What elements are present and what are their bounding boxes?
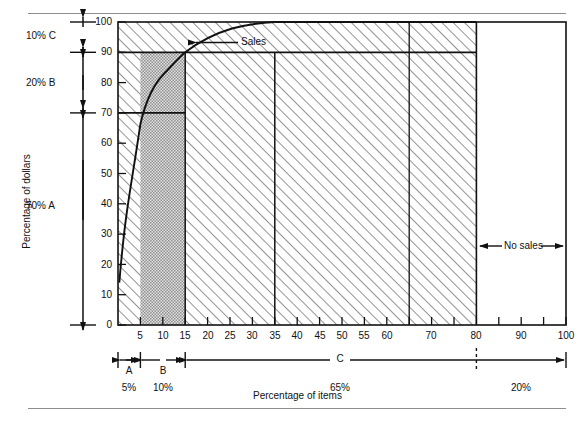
y-tick-label: 100 [86,17,112,27]
x-tick-label: 50 [330,331,354,341]
y-tick-label: 60 [86,138,112,148]
left-bracket-label-C: 10% C [26,30,56,41]
x-tick-label: 30 [240,331,264,341]
abc-analysis-figure: 100 90 80 70 60 50 40 30 20 10 0 5 10 15… [0,0,585,423]
x-tick-label: 40 [285,331,309,341]
left-bracket-label-A: 70% A [26,200,55,211]
bottom-bracket-pct-A: 5% [114,383,144,393]
x-tick-label: 15 [173,331,197,341]
x-tick-label: 25 [218,331,242,341]
left-bracket-label-B: 20% B [26,77,55,88]
x-tick-label: 70 [419,331,443,341]
region-no-sales [476,22,566,325]
bottom-bracket-pct-C: 65% [325,383,355,393]
x-tick-label: 20 [196,331,220,341]
bottom-bracket-class-B: B [151,366,175,376]
no-sales-annotation-label: No sales [504,241,543,251]
x-tick-label: 5 [128,331,152,341]
x-tick-label: 60 [375,331,399,341]
y-tick-label: 40 [86,199,112,209]
x-tick-label: 80 [464,331,488,341]
y-tick-label: 80 [86,78,112,88]
x-tick-label: 10 [151,331,175,341]
x-tick-label: 55 [352,331,376,341]
y-tick-label: 30 [86,229,112,239]
chart-canvas [0,0,585,423]
bottom-bracket-pct-no-sales: 20% [506,383,536,393]
y-tick-label: 90 [86,47,112,57]
x-tick-label: 100 [554,331,578,341]
bottom-bracket-class-A: A [117,366,141,376]
y-tick-label: 20 [86,260,112,270]
bottom-bracket-pct-B: 10% [148,383,178,393]
y-tick-label: 10 [86,290,112,300]
x-tick-label: 45 [308,331,332,341]
region-stipple-band [140,52,185,325]
x-tick-label: 90 [509,331,533,341]
y-tick-label: 50 [86,169,112,179]
bottom-bracket-class-C: C [329,354,351,364]
sales-annotation-label: Sales [241,37,266,47]
y-tick-label: 0 [86,320,112,330]
x-tick-label: 35 [263,331,287,341]
y-tick-label: 70 [86,108,112,118]
